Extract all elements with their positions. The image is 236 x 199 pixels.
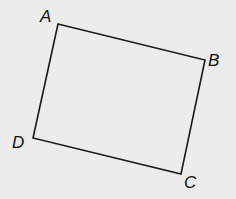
vertex-label-a: A (39, 7, 51, 26)
quadrilateral-diagram: A B C D (0, 0, 236, 199)
vertex-label-b: B (208, 51, 219, 70)
background (0, 0, 236, 199)
vertex-label-c: C (184, 173, 197, 192)
vertex-label-d: D (12, 133, 24, 152)
